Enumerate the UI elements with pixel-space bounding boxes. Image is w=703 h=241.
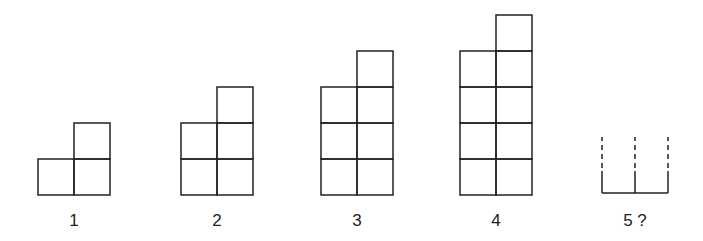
square-cell xyxy=(357,123,393,159)
square-cell xyxy=(460,123,496,159)
figure-1 xyxy=(38,123,110,195)
square-cell xyxy=(357,87,393,123)
figure-label: 2 xyxy=(187,211,247,231)
square-cell xyxy=(460,51,496,87)
figure-label: 1 xyxy=(44,211,104,231)
square-cell xyxy=(496,87,532,123)
square-cell xyxy=(321,159,357,195)
square-cell xyxy=(38,159,74,195)
figure-label-unknown: 5 ? xyxy=(605,211,665,231)
square-cell xyxy=(496,159,532,195)
square-cell xyxy=(217,159,253,195)
square-cell xyxy=(496,123,532,159)
square-cell xyxy=(217,87,253,123)
square-cell xyxy=(496,15,532,51)
pattern-diagram xyxy=(0,0,703,241)
square-cell xyxy=(496,51,532,87)
square-cell xyxy=(460,159,496,195)
square-cell xyxy=(321,123,357,159)
figure-2 xyxy=(181,87,253,195)
figure-5-unknown xyxy=(602,137,668,193)
figure-4 xyxy=(460,15,532,195)
square-cell xyxy=(460,87,496,123)
figure-3 xyxy=(321,51,393,195)
figure-label: 3 xyxy=(327,211,387,231)
square-cell xyxy=(74,159,110,195)
square-cell xyxy=(357,159,393,195)
square-cell xyxy=(181,123,217,159)
square-cell xyxy=(357,51,393,87)
square-cell xyxy=(321,87,357,123)
figure-label: 4 xyxy=(466,211,526,231)
square-cell xyxy=(74,123,110,159)
square-cell xyxy=(217,123,253,159)
square-cell xyxy=(181,159,217,195)
